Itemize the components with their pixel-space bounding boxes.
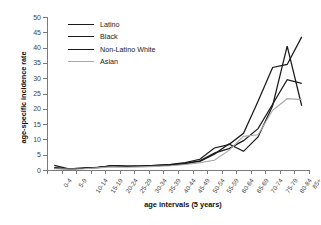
x-tick xyxy=(134,170,135,174)
x-tick-label: 65-69 xyxy=(254,177,269,194)
x-tick-label: 70-74 xyxy=(269,177,284,194)
x-tick xyxy=(91,170,92,174)
x-tick-label: 60-64 xyxy=(240,177,255,194)
x-tick-label: 35-39 xyxy=(167,177,182,194)
x-tick xyxy=(105,170,106,174)
y-tick-label: 10 xyxy=(33,136,41,143)
x-tick xyxy=(280,170,281,174)
x-axis-title: age intervals (5 years) xyxy=(47,200,319,209)
x-tick-label: 30-34 xyxy=(152,177,167,194)
x-tick-label: 20-24 xyxy=(123,177,138,194)
x-tick xyxy=(222,170,223,174)
x-tick-label: 0-4 xyxy=(62,177,73,188)
x-tick xyxy=(47,170,48,174)
x-tick xyxy=(178,170,179,174)
x-tick xyxy=(309,170,310,174)
x-tick xyxy=(265,170,266,174)
x-tick-label: 75-79 xyxy=(283,177,298,194)
legend-item-latino: Latino xyxy=(68,18,156,31)
x-tick-label: 45-49 xyxy=(196,177,211,194)
y-axis-title: age-specific incidence rate xyxy=(19,28,28,168)
legend-item-black: Black xyxy=(68,31,156,44)
legend-swatch-icon xyxy=(68,36,94,37)
x-tick-label: 55-59 xyxy=(225,177,240,194)
x-tick xyxy=(294,170,295,174)
y-tick-label: 15 xyxy=(33,121,41,128)
x-tick xyxy=(120,170,121,174)
legend-swatch-icon xyxy=(68,24,94,25)
x-tick-label: 50-54 xyxy=(211,177,226,194)
x-tick-label: 10-14 xyxy=(94,177,109,194)
legend-swatch-icon xyxy=(68,49,94,50)
legend-item-non-latino-white: Non-Latino White xyxy=(68,43,156,56)
y-tick-label: 5 xyxy=(37,151,41,158)
y-tick-label: 45 xyxy=(33,29,41,36)
x-tick xyxy=(251,170,252,174)
y-tick-label: 50 xyxy=(33,14,41,21)
y-tick-label: 20 xyxy=(33,105,41,112)
y-tick-label: 25 xyxy=(33,90,41,97)
y-tick-label: 30 xyxy=(33,75,41,82)
x-tick-label: 40-44 xyxy=(182,177,197,194)
legend-label: Asian xyxy=(100,58,118,65)
legend-label: Latino xyxy=(100,21,120,28)
x-tick-label: 25-29 xyxy=(138,177,153,194)
x-tick xyxy=(62,170,63,174)
x-tick xyxy=(236,170,237,174)
x-tick-label: 5-9 xyxy=(77,177,88,188)
y-tick-label: 35 xyxy=(33,59,41,66)
x-tick xyxy=(207,170,208,174)
legend-item-asian: Asian xyxy=(68,56,156,69)
x-tick xyxy=(193,170,194,174)
x-tick xyxy=(163,170,164,174)
x-tick-label: 15-19 xyxy=(109,177,124,194)
x-tick xyxy=(76,170,77,174)
series-line-asian xyxy=(54,99,301,169)
x-tick-label: 85+ xyxy=(310,177,321,190)
chart-legend: LatinoBlackNon-Latino WhiteAsian xyxy=(68,18,156,68)
x-tick xyxy=(149,170,150,174)
y-tick-label: 40 xyxy=(33,44,41,51)
legend-swatch-icon xyxy=(68,61,94,62)
legend-label: Non-Latino White xyxy=(100,46,156,53)
chart-figure: age-specific incidence rate age interval… xyxy=(0,0,321,225)
y-tick-label: 0 xyxy=(37,167,41,174)
legend-label: Black xyxy=(100,33,118,40)
